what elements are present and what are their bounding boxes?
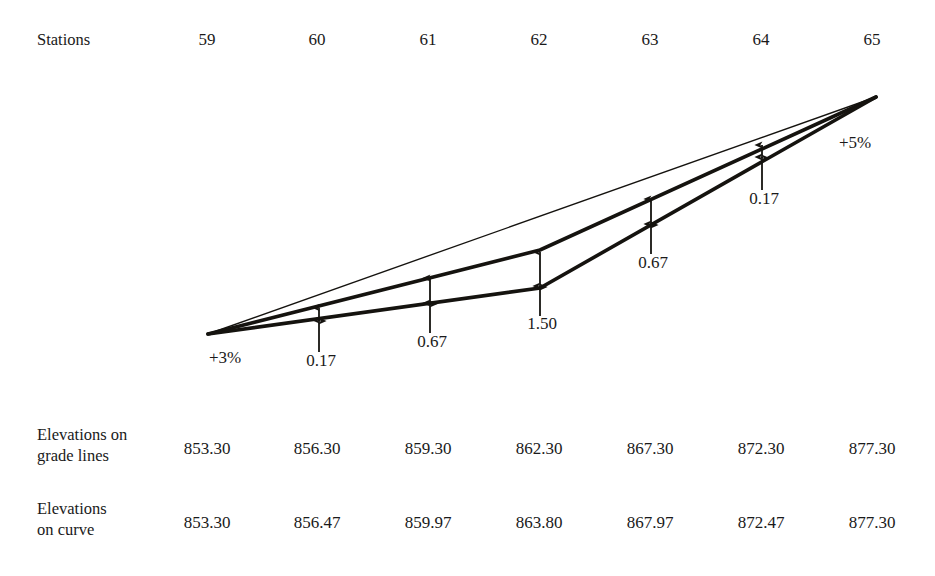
elevations-grade-row: Elevations ongrade lines 853.30 856.30 8… [0, 424, 935, 484]
elevation-grade-sta65: 877.30 [849, 439, 896, 459]
elevations-curve-label: Elevationson curve [37, 498, 107, 541]
elevations-grade-label-line2: grade lines [37, 446, 109, 465]
elevation-grade-sta59: 853.30 [184, 439, 231, 459]
chord-line [208, 97, 876, 334]
grade-in-label: +3% [209, 348, 241, 368]
offset-label-sta63: 0.67 [638, 253, 668, 273]
elevations-grade-label: Elevations ongrade lines [37, 424, 127, 467]
offset-label-sta64: 0.17 [749, 189, 779, 209]
elevation-curve-sta64: 872.47 [738, 513, 785, 533]
offset-label-sta60: 0.17 [306, 351, 336, 371]
elevations-curve-row: Elevationson curve 853.30 856.47 859.97 … [0, 498, 935, 558]
offset-label-sta61: 0.67 [417, 332, 447, 352]
elevation-curve-sta60: 856.47 [294, 513, 341, 533]
offset-label-sta62: 1.50 [527, 314, 557, 334]
elevation-curve-sta61: 859.97 [405, 513, 452, 533]
elevation-curve-sta59: 853.30 [184, 513, 231, 533]
elevation-grade-sta63: 867.30 [627, 439, 674, 459]
elevation-grade-sta61: 859.30 [405, 439, 452, 459]
elevation-curve-sta62: 863.80 [516, 513, 563, 533]
elevation-grade-sta60: 856.30 [294, 439, 341, 459]
elevation-grade-sta62: 862.30 [516, 439, 563, 459]
elevations-grade-label-line1: Elevations on [37, 425, 127, 444]
elevation-curve-sta63: 867.97 [627, 513, 674, 533]
elevations-curve-label-line1: Elevations [37, 499, 107, 518]
grade-out-label: +5% [839, 133, 871, 153]
elevations-curve-label-line2: on curve [37, 520, 94, 539]
elevation-curve-sta65: 877.30 [849, 513, 896, 533]
elevation-grade-sta64: 872.30 [738, 439, 785, 459]
vertical-curve-diagram: +3% +5% 0.17 0.67 1.50 0.67 0.17 [0, 0, 935, 400]
